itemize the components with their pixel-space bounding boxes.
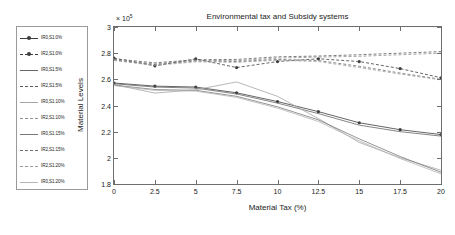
x-axis-tick-label: 20	[437, 188, 445, 195]
x-axis-tick	[278, 180, 279, 184]
y-axis-tick-label: 2.4	[101, 102, 111, 109]
y-axis-tick-right	[437, 53, 441, 54]
legend-item-ir2-s1-15[interactable]: IR2,S1:15%	[17, 142, 87, 158]
x-axis-tick	[155, 180, 156, 184]
legend-line-sample-icon	[20, 129, 38, 139]
y-axis-tick	[114, 184, 118, 185]
y-axis-tick-label: 2.8	[101, 50, 111, 57]
legend-label: IR2,S1:10%	[41, 116, 65, 121]
plot-frame: 02.557.51012.51517.5201.822.22.42.62.83	[113, 26, 442, 185]
x-axis-tick-top	[237, 27, 238, 31]
legend-line-sample-icon	[20, 65, 38, 75]
data-point-marker	[399, 128, 402, 131]
figure-canvas: IR0,S1:0%IR2,S1:0%IR0,S1:5%IR2,S1:5%IR0,…	[0, 0, 455, 235]
x-axis-tick	[359, 180, 360, 184]
data-point-marker	[358, 60, 361, 63]
y-axis-tick	[114, 27, 118, 28]
legend-item-ir0-s1-5[interactable]: IR0,S1:5%	[17, 62, 87, 78]
x-axis-tick-top	[278, 27, 279, 31]
x-axis-tick-top	[359, 27, 360, 31]
y-axis-label: Material Levels	[76, 78, 85, 132]
legend-item-ir0-s1-20[interactable]: IR0,S1:20%	[17, 174, 87, 190]
series-layer	[114, 27, 441, 184]
data-point-marker	[317, 110, 320, 113]
y-axis-exponent-base: × 10	[116, 15, 130, 22]
x-axis-tick-label: 0	[112, 188, 116, 195]
legend-label: IR0,S1:20%	[41, 180, 65, 185]
x-axis-tick-label: 17.5	[393, 188, 407, 195]
plot-area	[114, 27, 441, 184]
x-axis-tick	[196, 180, 197, 184]
legend-label: IR0,S1:0%	[41, 36, 62, 41]
y-axis-tick-right	[437, 184, 441, 185]
x-axis-tick-label: 15	[355, 188, 363, 195]
x-axis-label: Material Tax (%)	[113, 203, 442, 212]
legend-label: IR2,S1:0%	[41, 52, 62, 57]
x-axis-tick-label: 5	[194, 188, 198, 195]
x-axis-tick	[441, 180, 442, 184]
legend-line-sample-icon	[20, 161, 38, 171]
legend-item-ir0-s1-0[interactable]: IR0,S1:0%	[17, 30, 87, 46]
series-ir2-s1-0	[114, 57, 441, 80]
y-axis-tick-right	[437, 79, 441, 80]
data-point-marker	[317, 57, 320, 60]
legend-line-sample-icon	[20, 145, 38, 155]
legend-line-sample-icon	[20, 177, 38, 187]
legend-label: IR0,S1:15%	[41, 132, 65, 137]
series-ir0-s1-20	[114, 86, 441, 174]
y-axis-tick-right	[437, 132, 441, 133]
legend-line-sample-icon	[20, 97, 38, 107]
y-axis-tick	[114, 106, 118, 107]
y-axis-tick-right	[437, 158, 441, 159]
x-axis-tick-label: 7.5	[232, 188, 242, 195]
y-axis-tick	[114, 132, 118, 133]
y-axis-tick-label: 3	[107, 24, 111, 31]
y-axis-tick-label: 2.2	[101, 128, 111, 135]
legend-item-ir2-s1-0[interactable]: IR2,S1:0%	[17, 46, 87, 62]
y-axis-tick-label: 2.6	[101, 76, 111, 83]
x-axis-tick-top	[155, 27, 156, 31]
x-axis-tick-top	[318, 27, 319, 31]
y-axis-tick-right	[437, 27, 441, 28]
y-axis-tick	[114, 53, 118, 54]
x-axis-tick	[237, 180, 238, 184]
y-axis-exponent: × 105	[116, 13, 133, 22]
y-axis-tick-right	[437, 106, 441, 107]
legend-label: IR0,S1:5%	[41, 68, 62, 73]
data-point-marker	[358, 121, 361, 124]
legend-label: IR2,S1:20%	[41, 164, 65, 169]
legend-label: IR0,S1:10%	[41, 100, 65, 105]
legend-line-sample-icon	[20, 113, 38, 123]
data-point-marker	[235, 66, 238, 69]
x-axis-tick	[318, 180, 319, 184]
x-axis-tick-top	[400, 27, 401, 31]
x-axis-tick-top	[196, 27, 197, 31]
chart-title: Environmental tax and Subsidy systems	[113, 12, 442, 21]
legend-line-sample-icon	[20, 49, 38, 59]
y-axis-tick	[114, 158, 118, 159]
x-axis-tick-label: 2.5	[150, 188, 160, 195]
x-axis-tick	[400, 180, 401, 184]
series-ir0-s1-10	[114, 82, 441, 170]
y-axis-tick-label: 1.8	[101, 181, 111, 188]
y-axis-tick	[114, 79, 118, 80]
x-axis-tick-label: 12.5	[312, 188, 326, 195]
data-point-marker	[399, 67, 402, 70]
series-ir2-s1-20	[114, 60, 441, 80]
legend-item-ir2-s1-20[interactable]: IR2,S1:20%	[17, 158, 87, 174]
legend-line-sample-icon	[20, 81, 38, 91]
x-axis-tick-top	[441, 27, 442, 31]
y-axis-tick-label: 2	[107, 154, 111, 161]
legend-label: IR2,S1:15%	[41, 148, 65, 153]
legend-label: IR2,S1:5%	[41, 84, 62, 89]
y-axis-exponent-power: 5	[130, 13, 133, 19]
x-axis-tick-label: 10	[274, 188, 282, 195]
legend-line-sample-icon	[20, 33, 38, 43]
